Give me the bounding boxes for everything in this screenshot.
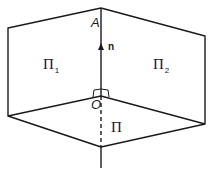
label-plane-1: Π1 (43, 56, 59, 72)
plane-1-subscript: 1 (55, 66, 59, 75)
diagram-canvas: A n O Π1 Π2 Π (0, 0, 213, 179)
base-plane-outline (8, 116, 205, 147)
normal-arrowhead-icon (98, 43, 104, 50)
plane-1-symbol: Π (43, 56, 54, 72)
label-point-A: A (91, 16, 100, 29)
diagram-lines (0, 0, 213, 179)
label-normal-n: n (108, 42, 114, 52)
label-plane-2: Π2 (153, 56, 169, 72)
plane-2-subscript: 2 (165, 66, 169, 75)
label-base-plane: Π (111, 120, 122, 135)
label-point-O: O (91, 98, 101, 111)
plane-2-symbol: Π (153, 56, 164, 72)
